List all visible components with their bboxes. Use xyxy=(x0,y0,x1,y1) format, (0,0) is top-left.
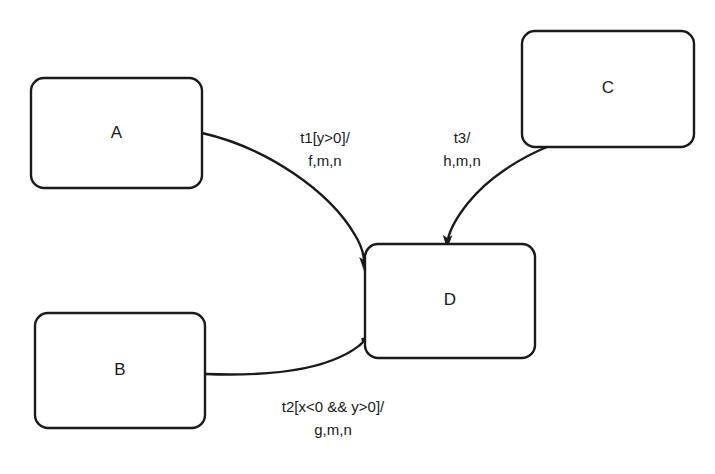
state-b-label: B xyxy=(114,360,125,379)
state-a-label: A xyxy=(111,123,123,142)
state-a[interactable]: A xyxy=(31,78,202,188)
state-d-label: D xyxy=(444,290,456,309)
transition-t1-label-line2: f,m,n xyxy=(308,152,341,169)
transition-t2-path xyxy=(205,343,362,374)
transition-t1-label-line1: t1[y>0]/ xyxy=(300,129,350,146)
diagram-canvas: A B C D t1[y>0]/ f,m,n t3/ h,m,n t2[x<0 … xyxy=(0,0,715,474)
transition-t2-label-line2: g,m,n xyxy=(314,421,352,438)
transition-t2-b-to-d xyxy=(205,337,369,374)
transition-t1-label: t1[y>0]/ f,m,n xyxy=(300,129,350,169)
transition-t2-label-line1: t2[x<0 && y>0]/ xyxy=(282,398,385,415)
transition-t3-label-line2: h,m,n xyxy=(443,152,481,169)
state-machine-diagram: A B C D t1[y>0]/ f,m,n t3/ h,m,n t2[x<0 … xyxy=(0,0,715,474)
state-c-label: C xyxy=(602,78,614,97)
state-b[interactable]: B xyxy=(35,313,205,428)
transition-t1-a-to-d xyxy=(202,133,369,271)
transition-t2-label: t2[x<0 && y>0]/ g,m,n xyxy=(282,398,385,438)
transition-t3-label-line1: t3/ xyxy=(454,129,472,146)
state-c[interactable]: C xyxy=(522,31,694,147)
transition-t3-label: t3/ h,m,n xyxy=(443,129,481,169)
state-d[interactable]: D xyxy=(365,244,535,358)
